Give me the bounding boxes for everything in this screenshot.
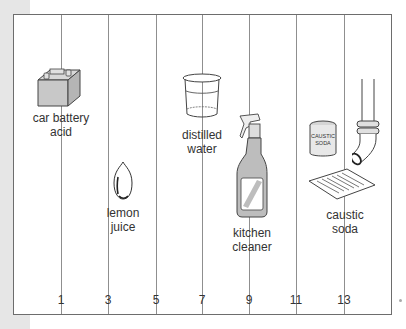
spray-bottle-icon — [236, 112, 268, 218]
tick-label: 3 — [105, 293, 112, 307]
page-mark — [399, 299, 402, 302]
battery-icon — [36, 66, 82, 108]
grid-line-ph-7 — [202, 15, 203, 314]
grid-line-ph-3 — [108, 15, 109, 314]
tick-label: 9 — [246, 293, 253, 307]
label-kitchen-cleaner: kitchen cleaner — [224, 226, 280, 254]
lemon-icon — [112, 161, 134, 201]
label-line: caustic — [317, 208, 373, 222]
drain-pipe-icon — [352, 79, 382, 175]
ph-scale-panel: 1 3 5 7 9 11 13 car battery acid lemon j… — [13, 14, 392, 315]
label-caustic-soda: caustic soda — [317, 208, 373, 236]
grid-line-ph-11 — [296, 15, 297, 314]
label-lemon-juice: lemon juice — [96, 206, 150, 234]
grid-line-ph-1 — [61, 15, 62, 314]
drain-grate-icon — [307, 167, 377, 201]
label-line: car battery — [21, 111, 101, 125]
tick-label: 7 — [199, 293, 206, 307]
tick-label: 13 — [337, 293, 350, 307]
svg-text:CAUSTIC: CAUSTIC — [311, 133, 335, 139]
label-line: kitchen — [224, 226, 280, 240]
label-car-battery-acid: car battery acid — [21, 111, 101, 139]
caustic-soda-can-icon: CAUSTIC SODA — [308, 120, 338, 158]
tick-label: 11 — [290, 293, 302, 307]
svg-text:SODA: SODA — [315, 140, 331, 146]
tick-label: 5 — [153, 293, 160, 307]
label-line: soda — [317, 222, 373, 236]
label-line: water — [172, 142, 232, 156]
label-distilled-water: distilled water — [172, 128, 232, 156]
label-line: acid — [21, 125, 101, 139]
label-line: juice — [96, 220, 150, 234]
grid-line-ph-13 — [344, 15, 345, 314]
tick-label: 1 — [58, 293, 65, 307]
label-line: distilled — [172, 128, 232, 142]
label-line: cleaner — [224, 240, 280, 254]
beaker-icon — [181, 72, 223, 120]
grid-line-ph-5 — [156, 15, 157, 314]
label-line: lemon — [96, 206, 150, 220]
